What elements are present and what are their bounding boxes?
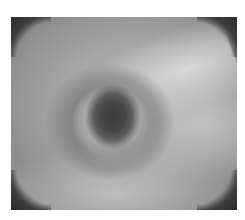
endoscopic-photo	[11, 17, 237, 210]
dark-corner-top-right	[197, 17, 237, 57]
figure-caption	[40, 214, 210, 220]
dark-corner-bottom-right	[197, 170, 237, 210]
dark-corner-top-left	[11, 17, 51, 57]
dark-corner-bottom-left	[11, 170, 51, 210]
